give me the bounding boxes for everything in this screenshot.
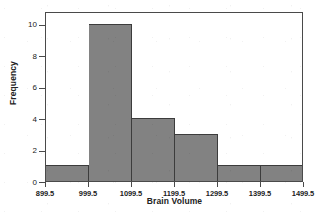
histogram-bar: [261, 165, 303, 181]
x-tick-mark: [217, 182, 218, 187]
x-tick-mark: [131, 182, 132, 187]
histogram-bar: [175, 134, 218, 181]
histogram-bar: [89, 24, 132, 181]
y-tick-mark: [39, 88, 45, 89]
y-tick-mark: [39, 119, 45, 120]
x-tick-mark: [88, 182, 89, 187]
clipped-title-text: [14, 0, 194, 2]
y-tick-label: 4: [33, 115, 37, 124]
y-tick-label: 10: [28, 20, 37, 29]
y-tick: 8: [0, 56, 45, 57]
histogram-bar: [46, 165, 89, 181]
y-tick: 0: [0, 182, 45, 183]
x-axis-title: Brain Volume: [45, 196, 304, 206]
y-tick-mark: [39, 151, 45, 152]
y-tick-label: 6: [33, 83, 37, 92]
plot-area: [45, 12, 303, 182]
y-tick: 10: [0, 25, 45, 26]
histogram-bar: [132, 118, 175, 181]
y-tick-label: 8: [33, 52, 37, 61]
histogram-figure: Frequency 0246810 899.5999.51099.51199.5…: [0, 0, 322, 213]
x-tick-mark: [303, 182, 304, 187]
y-tick-label: 2: [33, 146, 37, 155]
y-tick: 4: [0, 119, 45, 120]
y-tick-mark: [39, 25, 45, 26]
histogram-bar: [218, 165, 261, 181]
y-tick-mark: [39, 56, 45, 57]
y-tick-label: 0: [33, 178, 37, 187]
y-tick: 2: [0, 151, 45, 152]
x-tick-mark: [45, 182, 46, 187]
x-tick-mark: [260, 182, 261, 187]
x-tick-mark: [174, 182, 175, 187]
y-tick: 6: [0, 88, 45, 89]
